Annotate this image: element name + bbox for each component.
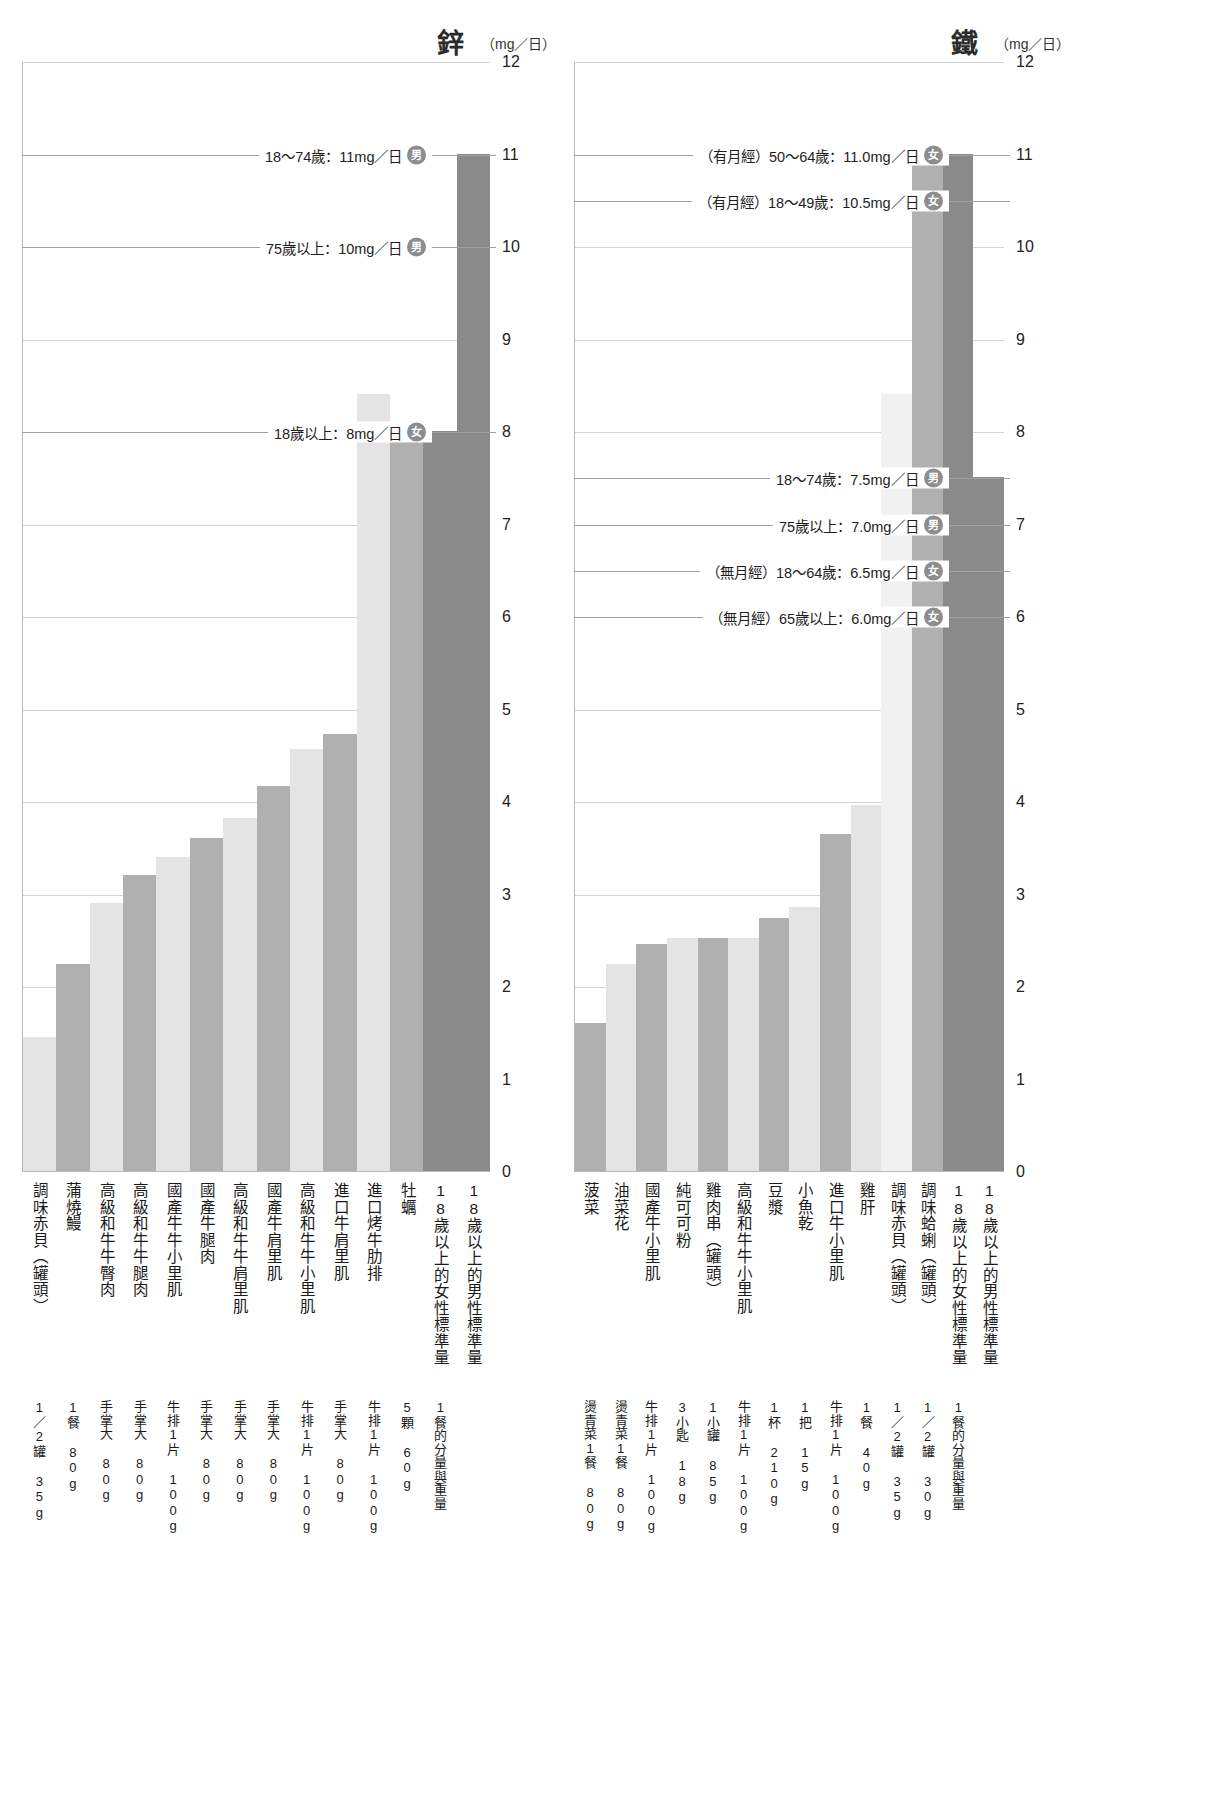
bar[interactable]	[881, 394, 912, 1171]
y-axis-tick-label: 8	[502, 423, 511, 441]
bar[interactable]	[390, 435, 423, 1171]
chart-panel-iron: 鐵 （mg／日） 菠菜油菜花國產牛小里肌純可可粉雞肉串（罐頭）高級和牛牛小里肌豆…	[552, 0, 1228, 1802]
serving-label: 1餐 80g	[55, 1400, 88, 1534]
category-label-text: 國產牛肩里肌	[264, 1182, 280, 1366]
serving-label-text: 牛排1片 100g	[299, 1400, 313, 1534]
female-badge-icon: 女	[924, 145, 943, 164]
bar[interactable]	[190, 838, 223, 1171]
serving-label: 3小匙 18g	[666, 1400, 697, 1534]
male-badge-icon: 男	[407, 238, 426, 257]
serving-label-text: 燙青菜1餐 80g	[613, 1400, 627, 1534]
bar-cell[interactable]	[290, 62, 323, 1171]
y-axis-tick-label: 1	[502, 1071, 511, 1089]
bar-cell[interactable]	[190, 62, 223, 1171]
bar[interactable]	[606, 964, 637, 1171]
reference-label-text: 18〜74歲：11mg／日	[265, 144, 402, 165]
category-label: 國產牛肩里肌	[256, 1182, 289, 1366]
category-label-text: 雞肉串（罐頭）	[704, 1182, 720, 1366]
serving-label: 1／2罐 30g	[912, 1400, 943, 1534]
serving-label: 1杯 210g	[758, 1400, 789, 1534]
bar[interactable]	[728, 938, 759, 1171]
bar[interactable]	[223, 818, 256, 1171]
y-axis-tick-label: 5	[502, 701, 511, 719]
bar[interactable]	[820, 834, 851, 1171]
category-label-text: 18歲以上的男性標準量	[465, 1182, 481, 1366]
bar-cell[interactable]	[123, 62, 156, 1171]
bar[interactable]	[667, 938, 698, 1171]
bar[interactable]	[457, 154, 490, 1172]
bar[interactable]	[23, 1037, 56, 1171]
bar[interactable]	[973, 477, 1004, 1171]
serving-label: 牛排1片 100g	[820, 1400, 851, 1534]
bar[interactable]	[636, 944, 667, 1171]
bar[interactable]	[943, 154, 974, 1172]
bar-cell[interactable]	[457, 62, 490, 1171]
bar[interactable]	[759, 918, 790, 1171]
panel-unit-zinc: （mg／日）	[481, 33, 556, 53]
bar-cell[interactable]	[357, 62, 390, 1171]
category-label: 高級和牛牛小里肌	[728, 1182, 759, 1366]
serving-label-text: 手掌大 80g	[232, 1400, 246, 1534]
bar[interactable]	[123, 875, 156, 1171]
serving-label: 牛排1片 100g	[356, 1400, 389, 1534]
bar[interactable]	[851, 805, 882, 1171]
serving-label-text: 1把 15g	[797, 1400, 811, 1534]
y-axis-tick-label: 3	[502, 886, 511, 904]
y-axis-tick-label: 9	[502, 331, 511, 349]
bar-cell[interactable]	[90, 62, 123, 1171]
y-axis-tick-label: 0	[502, 1163, 511, 1181]
bar-cell[interactable]	[56, 62, 89, 1171]
bar-cell[interactable]	[156, 62, 189, 1171]
bar-cell[interactable]	[23, 62, 56, 1171]
serving-label: 燙青菜1餐 80g	[574, 1400, 605, 1534]
bar[interactable]	[912, 150, 943, 1171]
bar[interactable]	[423, 431, 456, 1171]
female-badge-icon: 女	[407, 423, 426, 442]
y-axis-tick-label: 3	[1016, 886, 1025, 904]
bar-cell[interactable]	[390, 62, 423, 1171]
bar[interactable]	[257, 786, 290, 1171]
reference-label: （無月經）18〜64歲：6.5mg／日女	[700, 560, 949, 581]
plot-area-zinc	[22, 62, 490, 1172]
female-badge-icon: 女	[924, 191, 943, 210]
serving-label: 燙青菜1餐 80g	[605, 1400, 636, 1534]
reference-label-text: （無月經）65歲以上：6.0mg／日	[709, 607, 919, 628]
bar-cell[interactable]	[323, 62, 356, 1171]
bar[interactable]	[156, 857, 189, 1172]
bar[interactable]	[290, 749, 323, 1171]
bar[interactable]	[323, 734, 356, 1171]
y-axis-tick-label: 1	[1016, 1071, 1025, 1089]
bar[interactable]	[357, 394, 390, 1171]
reference-label-text: 18歲以上：8mg／日	[274, 422, 402, 443]
serving-label: 牛排1片 100g	[156, 1400, 189, 1534]
category-label: 高級和牛牛小里肌	[289, 1182, 322, 1366]
chart-page: 鋅 （mg／日） 調味赤貝（罐頭）蒲燒鰻高級和牛牛臀肉高級和牛牛腿肉國產牛牛小里…	[0, 0, 1228, 1802]
y-axis-tick-label: 4	[1016, 793, 1025, 811]
category-label: 進口牛小里肌	[820, 1182, 851, 1366]
category-label-text: 高級和牛牛小里肌	[735, 1182, 751, 1366]
serving-label-text: 1餐的分量與重量	[951, 1400, 965, 1534]
bar[interactable]	[789, 907, 820, 1171]
reference-label-text: （無月經）18〜64歲：6.5mg／日	[706, 560, 919, 581]
bar-cell[interactable]	[257, 62, 290, 1171]
serving-label: 1小罐 85g	[697, 1400, 728, 1534]
serving-label-text: 手掌大 80g	[98, 1400, 112, 1534]
bar[interactable]	[56, 964, 89, 1171]
category-label-text: 調味蛤蜊（罐頭）	[919, 1182, 935, 1366]
serving-label-text: 手掌大 80g	[199, 1400, 213, 1534]
serving-label-text: 1餐的分量與重量	[433, 1400, 447, 1534]
bar[interactable]	[698, 938, 729, 1171]
category-label-text: 小魚乾	[796, 1182, 812, 1366]
bar-cell[interactable]	[423, 62, 456, 1171]
serving-label: 手掌大 80g	[89, 1400, 122, 1534]
bar[interactable]	[90, 903, 123, 1171]
category-label: 豆漿	[758, 1182, 789, 1366]
category-label: 純可可粉	[666, 1182, 697, 1366]
serving-label: 1把 15g	[789, 1400, 820, 1534]
bar-cell[interactable]	[223, 62, 256, 1171]
serving-label: 牛排1片 100g	[635, 1400, 666, 1534]
category-label: 高級和牛牛肩里肌	[223, 1182, 256, 1366]
serving-label-text: 1／2罐 30g	[920, 1400, 934, 1534]
serving-label-text: 1杯 210g	[766, 1400, 780, 1534]
bar[interactable]	[575, 1023, 606, 1171]
